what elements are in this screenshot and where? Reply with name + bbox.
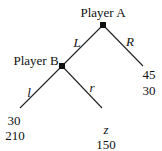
player-b-label: Player B — [13, 53, 58, 68]
edge-label-l: l — [27, 85, 31, 100]
payoff-l-top: 30 — [8, 113, 21, 128]
player-a-label: Player A — [80, 5, 126, 20]
payoff-l-bottom: 210 — [5, 128, 25, 143]
payoff-r-bottom: 150 — [96, 137, 116, 151]
node-player-b — [59, 63, 65, 69]
payoff-R-bottom: 30 — [143, 83, 156, 98]
edge-label-r: r — [89, 80, 95, 95]
edge-label-L: L — [72, 35, 80, 50]
edge-R — [103, 25, 143, 66]
edge-label-R: R — [125, 34, 134, 49]
edge-r — [62, 66, 102, 108]
edge-L — [62, 25, 103, 66]
game-tree: Player A Player B L R l r 45 30 30 210 z… — [0, 0, 162, 151]
payoff-R-top: 45 — [143, 67, 156, 82]
payoff-r-top: z — [102, 122, 108, 137]
node-player-a — [100, 22, 106, 28]
